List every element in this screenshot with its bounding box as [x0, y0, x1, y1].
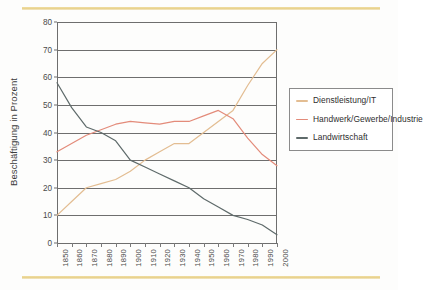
legend-swatch-icon — [296, 100, 308, 102]
y-axis-title: Beschäftigung in Prozent — [8, 42, 19, 222]
accent-bar-top — [22, 7, 380, 10]
x-tick-label-1970: 1970 — [237, 249, 246, 267]
x-tick-mark-1980 — [248, 243, 249, 247]
x-tick-label-1930: 1930 — [178, 249, 187, 267]
y-tick-label-10: 10 — [43, 211, 52, 220]
y-tick-label-40: 40 — [43, 128, 52, 137]
y-tick-label-70: 70 — [43, 45, 52, 54]
x-tick-label-1920: 1920 — [163, 249, 172, 267]
x-tick-label-1880: 1880 — [105, 249, 114, 267]
y-tick-label-0: 0 — [47, 239, 52, 248]
series-line-landwirtschaft — [57, 83, 277, 235]
series-lines — [57, 22, 277, 243]
x-tick-mark-1950 — [204, 243, 205, 247]
x-tick-label-1990: 1990 — [266, 249, 275, 267]
x-tick-mark-1850 — [57, 243, 58, 247]
accent-bar-bottom — [22, 276, 380, 279]
x-tick-mark-1860 — [72, 243, 73, 247]
x-tick-mark-1870 — [86, 243, 87, 247]
y-tick-label-80: 80 — [43, 18, 52, 27]
x-tick-label-1860: 1860 — [75, 249, 84, 267]
x-tick-label-1940: 1940 — [193, 249, 202, 267]
x-tick-label-1950: 1950 — [207, 249, 216, 267]
x-tick-mark-1930 — [174, 243, 175, 247]
legend-item-label: Landwirtschaft — [313, 132, 368, 144]
x-tick-mark-1970 — [233, 243, 234, 247]
x-tick-mark-2000 — [277, 243, 278, 247]
x-tick-label-1900: 1900 — [134, 249, 143, 267]
y-tick-label-50: 50 — [43, 100, 52, 109]
y-tick-label-30: 30 — [43, 156, 52, 165]
x-tick-mark-1960 — [218, 243, 219, 247]
x-tick-label-1960: 1960 — [222, 249, 231, 267]
legend-item[interactable]: Dienstleistung/IT — [293, 95, 388, 107]
x-tick-label-1890: 1890 — [119, 249, 128, 267]
legend-item[interactable]: Handwerk/Gewerbe/Industrie — [293, 114, 388, 126]
x-tick-label-2000: 2000 — [281, 249, 290, 267]
x-tick-mark-1900 — [130, 243, 131, 247]
x-tick-mark-1990 — [262, 243, 263, 247]
legend-item[interactable]: Landwirtschaft — [293, 132, 388, 144]
series-line-handwerk-gewerbe-industrie — [57, 110, 277, 165]
x-tick-mark-1910 — [145, 243, 146, 247]
x-axis-ticks: 1850186018701880189019001910192019301940… — [57, 243, 277, 248]
x-tick-mark-1920 — [160, 243, 161, 247]
x-tick-mark-1880 — [101, 243, 102, 247]
legend-swatch-icon — [296, 137, 308, 139]
x-tick-mark-1940 — [189, 243, 190, 247]
legend-item-label: Handwerk/Gewerbe/Industrie — [313, 114, 423, 126]
legend-swatch-icon — [296, 119, 308, 121]
x-tick-mark-1890 — [116, 243, 117, 247]
x-tick-label-1980: 1980 — [251, 249, 260, 267]
plot-area: 01020304050607080 1850186018701880189019… — [57, 22, 277, 243]
legend: Dienstleistung/ITHandwerk/Gewerbe/Indust… — [289, 88, 393, 151]
x-tick-label-1870: 1870 — [90, 249, 99, 267]
x-tick-label-1910: 1910 — [149, 249, 158, 267]
y-tick-label-60: 60 — [43, 73, 52, 82]
y-tick-label-20: 20 — [43, 183, 52, 192]
legend-item-label: Dienstleistung/IT — [313, 95, 376, 107]
x-tick-label-1850: 1850 — [61, 249, 70, 267]
